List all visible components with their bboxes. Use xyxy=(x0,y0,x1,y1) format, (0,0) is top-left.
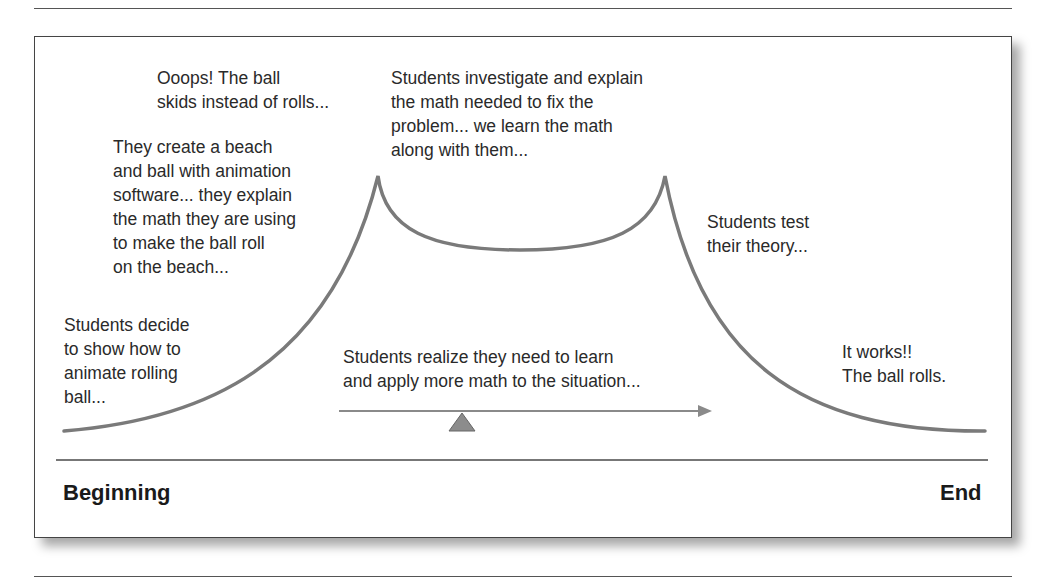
stage-ooops: Ooops! The ball skids instead of rolls..… xyxy=(157,66,329,114)
axis-end-label: End xyxy=(940,480,982,506)
stage-create: They create a beach and ball with animat… xyxy=(113,135,296,279)
stage-decide: Students decide to show how to animate r… xyxy=(64,313,190,409)
fulcrum-triangle-icon xyxy=(449,413,475,431)
axis-start-label: Beginning xyxy=(63,480,171,506)
stage-test: Students test their theory... xyxy=(707,210,809,258)
stage-works: It works!! The ball rolls. xyxy=(842,340,946,388)
realize-text: Students realize they need to learn and … xyxy=(343,345,641,393)
arrow-head-icon xyxy=(698,405,712,417)
stage-investigate: Students investigate and explain the mat… xyxy=(391,66,643,162)
